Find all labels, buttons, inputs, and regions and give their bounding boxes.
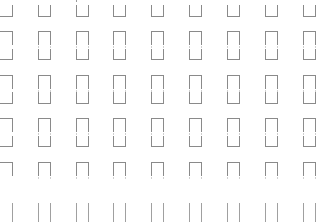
separator-dot <box>227 46 228 48</box>
separator-dot <box>76 133 77 135</box>
bracket-cup-shape <box>38 92 51 104</box>
bracket-cap-shape <box>113 118 126 132</box>
separator-dot <box>265 133 266 135</box>
bracket-cup-shape <box>265 92 278 104</box>
bracket-cup-shape <box>0 49 13 60</box>
separator-dot <box>50 46 51 48</box>
separator-dot <box>315 177 316 179</box>
separator-dot <box>277 133 278 135</box>
separator-dot <box>38 133 39 135</box>
bracket-cup-shape <box>227 49 240 60</box>
bracket-cup-shape <box>227 5 240 17</box>
separator-dot <box>189 133 190 135</box>
bracket-legs-shape <box>0 203 13 222</box>
bracket-cap-shape <box>0 75 13 89</box>
bracket-cup-shape <box>151 49 164 60</box>
bracket-legs-shape <box>227 203 240 222</box>
bracket-cap-shape <box>189 31 202 45</box>
bracket-cap-shape <box>227 75 240 89</box>
bracket-cup-shape <box>189 5 202 17</box>
bracket-legs-shape <box>303 203 316 222</box>
bracket-cup-shape <box>76 49 89 60</box>
bracket-cap-shape <box>113 31 126 45</box>
bracket-cup-shape <box>76 136 89 147</box>
bracket-cap-shape <box>38 162 51 176</box>
bracket-cup-shape <box>151 5 164 17</box>
separator-dot <box>151 133 152 135</box>
bracket-cap-shape <box>38 75 51 89</box>
bracket-cap-shape <box>38 118 51 132</box>
separator-dot <box>125 177 126 179</box>
bracket-legs-shape <box>189 203 202 222</box>
separator-dot <box>163 46 164 48</box>
bracket-cap-shape <box>151 162 164 176</box>
bracket-cap-shape <box>0 162 13 176</box>
bracket-cup-shape <box>76 92 89 104</box>
bracket-cap-shape <box>76 31 89 45</box>
bracket-cup-shape <box>76 5 89 17</box>
separator-dot <box>88 177 89 179</box>
separator-dot <box>303 46 304 48</box>
bracket-cap-shape <box>189 118 202 132</box>
separator-dot <box>265 46 266 48</box>
bracket-cap-shape <box>265 162 278 176</box>
bracket-cap-shape <box>227 31 240 45</box>
bracket-cap-shape <box>227 118 240 132</box>
bracket-legs-shape <box>265 203 278 222</box>
bracket-cap-shape <box>189 162 202 176</box>
bracket-legs-shape <box>113 203 126 222</box>
bracket-cup-shape <box>265 136 278 147</box>
bracket-legs-shape <box>151 203 164 222</box>
bracket-cap-shape <box>303 31 316 45</box>
bracket-cap-shape <box>265 31 278 45</box>
separator-dot <box>303 133 304 135</box>
bracket-cap-shape <box>227 162 240 176</box>
bracket-cup-shape <box>227 92 240 104</box>
bracket-cap-shape <box>76 118 89 132</box>
separator-dot <box>189 177 190 179</box>
bracket-cup-shape <box>38 136 51 147</box>
separator-dot <box>239 133 240 135</box>
bracket-cup-shape <box>38 5 51 17</box>
bracket-cap-shape <box>151 118 164 132</box>
bracket-cap-shape <box>76 162 89 176</box>
separator-dot <box>50 133 51 135</box>
bracket-cup-shape <box>38 49 51 60</box>
bracket-cup-shape <box>151 92 164 104</box>
bracket-cup-shape <box>113 92 126 104</box>
bracket-cap-shape <box>303 162 316 176</box>
top-mark <box>76 0 77 2</box>
bracket-cap-shape <box>303 118 316 132</box>
separator-dot <box>201 177 202 179</box>
bracket-cup-shape <box>265 5 278 17</box>
separator-dot <box>163 133 164 135</box>
separator-dot <box>201 133 202 135</box>
separator-dot <box>277 177 278 179</box>
separator-dot <box>315 133 316 135</box>
bracket-cup-shape <box>0 92 13 104</box>
separator-dot <box>76 177 77 179</box>
bracket-cup-shape <box>303 136 316 147</box>
separator-dot <box>113 46 114 48</box>
bracket-cap-shape <box>151 31 164 45</box>
separator-dot <box>76 46 77 48</box>
separator-dot <box>227 177 228 179</box>
bracket-cup-shape <box>303 5 316 17</box>
bracket-cap-shape <box>265 75 278 89</box>
bracket-cap-shape <box>189 75 202 89</box>
bracket-cap-shape <box>113 75 126 89</box>
bracket-cap-shape <box>113 162 126 176</box>
bracket-cup-shape <box>189 136 202 147</box>
separator-dot <box>38 177 39 179</box>
separator-dot <box>113 133 114 135</box>
separator-dot <box>163 177 164 179</box>
separator-dot <box>265 177 266 179</box>
separator-dot <box>239 46 240 48</box>
bracket-cup-shape <box>265 49 278 60</box>
separator-dot <box>38 46 39 48</box>
separator-dot <box>125 46 126 48</box>
bracket-cup-shape <box>303 92 316 104</box>
bracket-legs-shape <box>38 203 51 222</box>
bracket-cup-shape <box>113 5 126 17</box>
bracket-cup-shape <box>0 5 13 17</box>
